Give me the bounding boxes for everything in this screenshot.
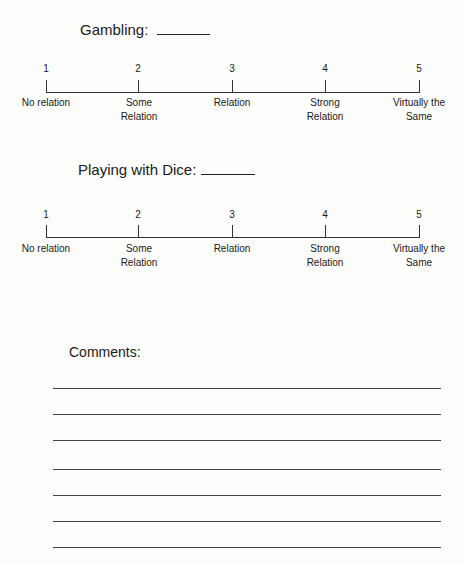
comment-line[interactable]	[53, 521, 441, 522]
question-title: Gambling:	[80, 21, 148, 38]
answer-blank[interactable]	[201, 173, 255, 175]
scale-number: 3	[222, 209, 242, 220]
scale-tick[interactable]	[232, 80, 233, 93]
scale-number: 5	[409, 63, 429, 74]
comment-line[interactable]	[53, 495, 441, 496]
answer-blank[interactable]	[157, 33, 210, 35]
scale-label: Relation	[192, 96, 272, 110]
scale-number: 2	[128, 63, 148, 74]
scale-tick[interactable]	[325, 225, 326, 238]
comment-line[interactable]	[53, 547, 441, 548]
scale-number: 2	[128, 209, 148, 220]
scale-label: Some Relation	[114, 242, 164, 270]
scale-number: 4	[315, 63, 335, 74]
scale-tick[interactable]	[46, 80, 47, 93]
scale-tick[interactable]	[138, 225, 139, 238]
scale-number: 1	[36, 63, 56, 74]
question-title: Playing with Dice:	[78, 161, 196, 178]
scale-number: 4	[315, 209, 335, 220]
rating-scale-playing-with-dice: 1 2 3 4 5 No relation Some Relation Rela…	[0, 208, 464, 288]
scale-label: No relation	[11, 242, 81, 256]
question-playing-with-dice: Playing with Dice:	[78, 161, 255, 178]
scale-label: Strong Relation	[300, 96, 350, 124]
scale-number: 1	[36, 209, 56, 220]
scale-label: Strong Relation	[300, 242, 350, 270]
question-gambling: Gambling:	[80, 21, 210, 38]
scale-tick[interactable]	[419, 80, 420, 93]
comments-label: Comments:	[69, 344, 141, 360]
comment-line[interactable]	[53, 469, 441, 470]
scale-number: 3	[222, 63, 242, 74]
scale-tick[interactable]	[46, 225, 47, 238]
scale-tick[interactable]	[419, 225, 420, 238]
comment-line[interactable]	[53, 414, 441, 415]
scale-tick[interactable]	[138, 80, 139, 93]
scale-number: 5	[409, 209, 429, 220]
scale-tick[interactable]	[232, 225, 233, 238]
scale-label: Some Relation	[114, 96, 164, 124]
comment-line[interactable]	[53, 388, 441, 389]
scale-label: Relation	[192, 242, 272, 256]
scale-label: No relation	[11, 96, 81, 110]
rating-scale-gambling: 1 2 3 4 5 No relation Some Relation Rela…	[0, 62, 464, 142]
scale-label: Virtually the Same	[391, 96, 447, 124]
scale-tick[interactable]	[325, 80, 326, 93]
comment-line[interactable]	[53, 440, 441, 441]
scale-label: Virtually the Same	[391, 242, 447, 270]
